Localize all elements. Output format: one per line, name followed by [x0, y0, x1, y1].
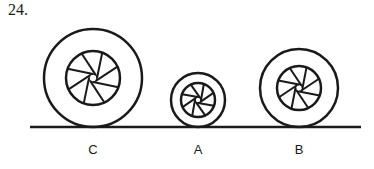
wheel-label-c: C [83, 142, 103, 157]
spoke [303, 67, 307, 88]
spoke [278, 80, 299, 84]
wheel-b [260, 49, 338, 127]
spoke [93, 82, 118, 87]
spoke [192, 100, 195, 116]
spoke [299, 92, 320, 96]
spoke [201, 84, 204, 100]
spoke [97, 53, 102, 78]
rim-circle [66, 51, 120, 105]
wheel-label-b: B [289, 142, 309, 157]
wheel-a [171, 73, 225, 127]
spoke [84, 78, 89, 103]
spoke [182, 94, 198, 97]
wheels-diagram [0, 0, 374, 169]
hub-circle [296, 85, 303, 92]
wheel-c [44, 29, 142, 127]
spoke [68, 69, 93, 74]
tire-outer-circle [44, 29, 142, 127]
spoke [291, 88, 295, 109]
wheel-label-a: A [188, 142, 208, 157]
tire-outer-circle [171, 73, 225, 127]
hub-circle [89, 74, 97, 82]
spoke [198, 103, 214, 106]
rim-circle [277, 66, 321, 110]
rim-circle [181, 83, 215, 117]
hub-circle [195, 97, 201, 103]
tire-outer-circle [260, 49, 338, 127]
